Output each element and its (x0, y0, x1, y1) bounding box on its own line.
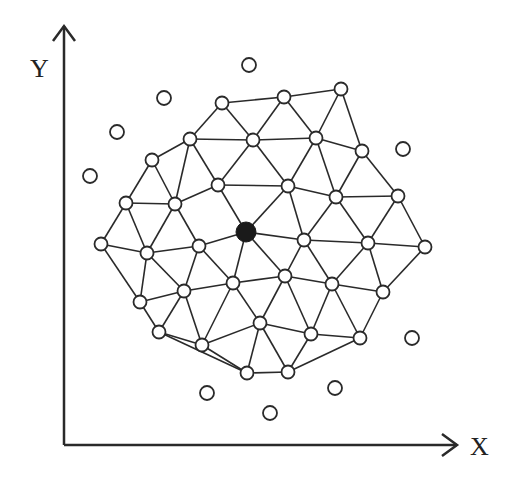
mesh-edge (304, 240, 368, 243)
mesh-node (193, 240, 206, 253)
isolated-node (405, 331, 419, 345)
mesh-edge (332, 284, 383, 292)
mesh-edge (304, 197, 336, 240)
mesh-edge (368, 196, 398, 243)
mesh-edge (218, 185, 288, 186)
mesh-node (419, 241, 432, 254)
mesh-edge (336, 196, 398, 197)
mesh-node (310, 132, 323, 145)
mesh-edge (362, 151, 398, 196)
mesh-edge (222, 97, 284, 103)
mesh-node (134, 296, 147, 309)
mesh-node (247, 134, 260, 147)
mesh-edge (202, 345, 247, 373)
mesh-node (120, 197, 133, 210)
mesh-node (282, 180, 295, 193)
mesh-edge (288, 138, 316, 186)
mesh-edge (184, 283, 233, 291)
isolated-node (328, 381, 342, 395)
mesh-edge (260, 323, 311, 334)
mesh-edge (311, 284, 332, 334)
mesh-node (326, 278, 339, 291)
mesh-node (169, 198, 182, 211)
mesh-node (305, 328, 318, 341)
y-axis-label: Y (30, 56, 49, 82)
mesh-edge (199, 246, 233, 283)
mesh-edge (288, 186, 304, 240)
mesh-node (241, 367, 254, 380)
mesh-edge (147, 204, 175, 253)
mesh-edge (284, 89, 341, 97)
mesh-edge (383, 247, 425, 292)
mesh-node (354, 332, 367, 345)
mesh-edge (332, 243, 368, 284)
mesh-edge (284, 97, 316, 138)
mesh-node (178, 285, 191, 298)
mesh-edge (218, 140, 253, 185)
mesh-node (153, 326, 166, 339)
mesh-node (146, 154, 159, 167)
mesh-edge (126, 203, 147, 253)
mesh-edge (398, 196, 425, 247)
mesh-node (254, 317, 267, 330)
mesh-node (392, 190, 405, 203)
isolated-node (110, 125, 124, 139)
isolated-node (396, 142, 410, 156)
mesh-edge (253, 140, 288, 186)
mesh-edge (336, 151, 362, 197)
mesh-node (141, 247, 154, 260)
mesh-edge (233, 276, 285, 283)
mesh-node (330, 191, 343, 204)
mesh-node (282, 366, 295, 379)
isolated-node (200, 386, 214, 400)
mesh-edge (316, 138, 336, 197)
mesh-edge (184, 291, 202, 345)
mesh-edge (304, 240, 332, 284)
mesh-edge (126, 160, 152, 203)
mesh-edges (101, 89, 425, 373)
mesh-node (377, 286, 390, 299)
mesh-edge (147, 253, 184, 291)
isolated-node (263, 406, 277, 420)
mesh-node (298, 234, 311, 247)
mesh-edge (190, 139, 253, 140)
mesh-edge (175, 139, 190, 204)
mesh-edge (316, 89, 341, 138)
mesh-node (362, 237, 375, 250)
mesh-edge (190, 139, 218, 185)
mesh-edge (101, 244, 140, 302)
mesh-node (196, 339, 209, 352)
isolated-node (83, 169, 97, 183)
mesh-edge (332, 284, 360, 338)
mesh-node (227, 277, 240, 290)
mesh-edge (341, 89, 362, 151)
mesh-node (279, 270, 292, 283)
mesh-node (356, 145, 369, 158)
isolated-node (242, 58, 256, 72)
mesh-edge (368, 243, 425, 247)
mesh-node (184, 133, 197, 146)
mesh-edge (247, 323, 260, 373)
mesh-edge (253, 97, 284, 140)
mesh-edge (140, 253, 147, 302)
isolated-node (157, 91, 171, 105)
mesh-node (335, 83, 348, 96)
mesh-node (278, 91, 291, 104)
mesh-edge (152, 160, 175, 204)
mesh-node (212, 179, 225, 192)
mesh-edge (360, 292, 383, 338)
center-node (236, 222, 256, 242)
mesh-edge (260, 323, 288, 372)
mesh-edge (147, 246, 199, 253)
network-diagram (0, 0, 523, 483)
mesh-node (216, 97, 229, 110)
mesh-node (95, 238, 108, 251)
mesh-edge (285, 276, 311, 334)
mesh-edge (253, 138, 316, 140)
mesh-edge (368, 243, 383, 292)
mesh-edge (260, 276, 285, 323)
mesh-edge (336, 197, 368, 243)
x-axis-label: X (470, 434, 489, 460)
